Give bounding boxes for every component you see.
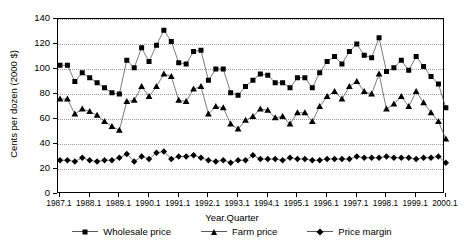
data-point xyxy=(332,54,337,59)
legend-item-triangle[interactable]: Farm price xyxy=(201,226,277,237)
data-point xyxy=(87,75,92,80)
data-point xyxy=(316,103,323,109)
data-point xyxy=(413,88,420,94)
data-point xyxy=(72,158,78,164)
data-point xyxy=(213,158,219,164)
data-point xyxy=(250,78,255,83)
data-point xyxy=(80,70,85,75)
data-point xyxy=(176,153,182,159)
data-point xyxy=(295,75,300,80)
data-point xyxy=(243,84,248,89)
data-point xyxy=(346,83,353,89)
y-tick-label: 40 xyxy=(20,138,50,147)
y-axis-title-text: Cents per dozen (2000 $) xyxy=(8,50,19,158)
data-point xyxy=(169,39,174,44)
series-line xyxy=(60,74,446,139)
data-point xyxy=(279,113,286,119)
y-tick-label: 120 xyxy=(20,38,50,47)
data-point xyxy=(309,157,315,163)
data-point xyxy=(383,153,389,159)
y-tick-label: 140 xyxy=(20,13,50,22)
data-point xyxy=(331,156,337,162)
price-chart: Cents per dozen (2000 $) 020406080100120… xyxy=(0,0,464,252)
data-point xyxy=(79,106,86,112)
data-point xyxy=(109,90,114,95)
data-point xyxy=(109,157,115,163)
data-point xyxy=(368,155,374,161)
data-point xyxy=(325,59,330,64)
data-point xyxy=(442,136,449,142)
data-point xyxy=(132,65,137,70)
data-point xyxy=(436,82,441,87)
legend-item-diamond[interactable]: Price margin xyxy=(307,226,391,237)
data-point xyxy=(346,156,352,162)
data-point xyxy=(116,127,123,133)
y-tick-label: 100 xyxy=(20,63,50,72)
data-point xyxy=(198,83,205,89)
data-point xyxy=(302,156,308,162)
data-point xyxy=(391,65,396,70)
data-point xyxy=(406,155,412,161)
data-point xyxy=(405,103,412,109)
data-point xyxy=(413,156,419,162)
data-point xyxy=(242,117,249,123)
data-point xyxy=(384,69,389,74)
data-point xyxy=(353,78,360,84)
data-point xyxy=(160,71,167,77)
x-axis-title: Year.Quarter xyxy=(0,212,464,223)
data-point xyxy=(280,80,285,85)
data-point xyxy=(138,83,145,89)
data-point xyxy=(190,152,196,158)
data-point xyxy=(205,157,211,163)
data-point xyxy=(406,68,411,73)
data-point xyxy=(220,157,226,163)
legend-label: Farm price xyxy=(232,226,277,237)
data-point xyxy=(294,156,300,162)
data-point xyxy=(376,71,383,77)
x-tick-mark xyxy=(237,193,238,197)
data-point xyxy=(227,121,234,127)
data-point xyxy=(102,85,107,90)
data-point xyxy=(273,80,278,85)
data-point xyxy=(287,155,293,161)
data-point xyxy=(324,156,330,162)
data-point xyxy=(86,157,92,163)
data-point xyxy=(288,85,293,90)
x-tick-label: 2000.1 xyxy=(425,199,464,208)
data-point xyxy=(71,111,78,117)
data-point xyxy=(391,155,397,161)
data-point xyxy=(443,105,448,110)
data-point xyxy=(79,155,85,161)
x-tick-mark xyxy=(89,193,90,197)
data-point xyxy=(198,48,203,53)
data-point xyxy=(101,157,107,163)
data-point xyxy=(258,72,263,77)
data-point xyxy=(317,70,322,75)
data-point xyxy=(398,155,404,161)
y-tick-label: 0 xyxy=(20,188,50,197)
x-tick-mark xyxy=(385,193,386,197)
data-point xyxy=(154,43,159,48)
data-point xyxy=(347,49,352,54)
data-point xyxy=(95,80,100,85)
data-point xyxy=(354,153,360,159)
data-point xyxy=(257,156,263,162)
data-point xyxy=(109,123,116,129)
data-point xyxy=(257,106,264,112)
legend-item-square[interactable]: Wholesale price xyxy=(72,226,171,237)
x-tick-mark xyxy=(178,193,179,197)
data-point xyxy=(421,64,426,69)
data-point xyxy=(265,73,270,78)
legend-label: Price margin xyxy=(338,226,391,237)
x-tick-mark xyxy=(207,193,208,197)
data-point xyxy=(175,97,182,103)
x-tick-mark xyxy=(356,193,357,197)
x-tick-mark xyxy=(445,193,446,197)
data-point xyxy=(242,157,248,163)
data-point xyxy=(228,90,233,95)
data-point xyxy=(324,93,331,99)
data-point xyxy=(279,157,285,163)
data-point xyxy=(146,93,153,99)
data-point xyxy=(94,158,100,164)
data-point xyxy=(339,156,345,162)
